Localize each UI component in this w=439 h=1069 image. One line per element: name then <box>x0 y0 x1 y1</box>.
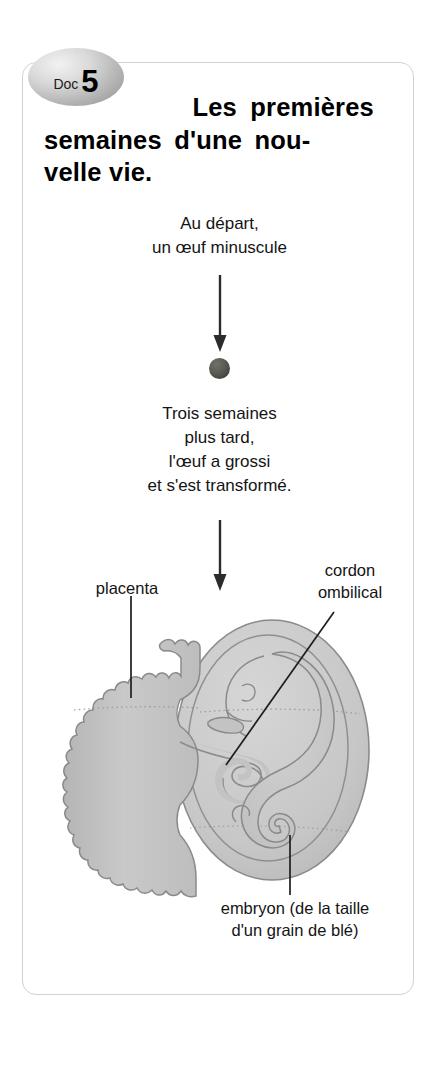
doc-number-badge: Doc 5 <box>28 48 124 106</box>
step-2-caption-line-1: Trois semaines <box>0 402 439 426</box>
step-2-caption-line-4: et s'est transformé. <box>0 474 439 498</box>
down-arrow-icon <box>211 520 229 592</box>
doc-badge-inner: Doc 5 <box>53 63 98 94</box>
down-arrow-icon <box>211 275 229 353</box>
step-1-caption-line-1: Au départ, <box>0 212 439 236</box>
step-2-caption: Trois semaines plus tard, l'œuf a grossi… <box>0 402 439 499</box>
doc-badge-number: 5 <box>81 66 98 97</box>
step-1-caption: Au départ, un œuf minuscule <box>0 212 439 260</box>
doc-badge-prefix: Doc <box>53 76 78 92</box>
page-title: Les premières semaines d'une nou- velle … <box>44 91 374 189</box>
label-embryon-line-2: d'un grain de blé) <box>160 920 430 942</box>
label-embryon-line-1: embryon (de la taille <box>160 898 430 920</box>
egg-cell-icon <box>209 358 230 379</box>
step-2-caption-line-2: plus tard, <box>0 426 439 450</box>
label-embryon: embryon (de la taille d'un grain de blé) <box>160 898 430 942</box>
page-title-line-3: velle vie. <box>44 156 374 189</box>
step-2-caption-line-3: l'œuf a grossi <box>0 450 439 474</box>
page-title-line-2: semaines d'une nou- <box>44 124 374 157</box>
label-cordon-line-1: cordon <box>290 560 410 582</box>
step-1-caption-line-2: un œuf minuscule <box>0 236 439 260</box>
embryo-placenta-illustration <box>40 590 400 900</box>
